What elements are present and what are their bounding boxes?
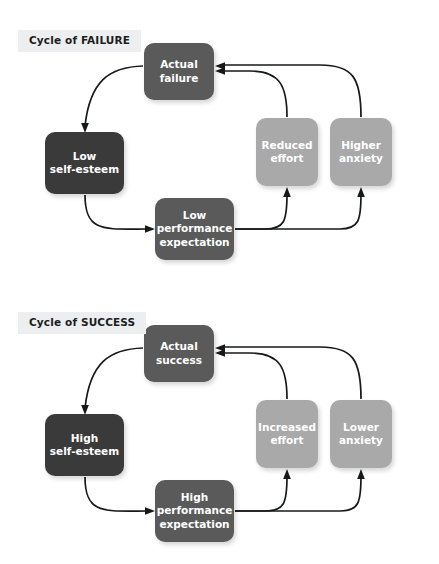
edge-actual-to-esteem [85,348,143,408]
edge-expectation-to-anxiety [235,194,361,229]
edge-anxiety-to-actual [222,347,361,399]
cycle-success-title: Cycle of SUCCESS [18,312,146,334]
edge-esteem-to-expectation [85,195,148,229]
node-actual-success[interactable]: Actual success [144,325,214,382]
edge-anxiety-to-actual-arrowhead [215,344,225,352]
edge-expectation-to-effort-arrowhead [283,187,291,197]
edge-expectation-to-anxiety-arrowhead [357,469,365,479]
edge-effort-to-actual-arrowhead [215,67,225,75]
node-high-self-esteem[interactable]: High self-esteem [45,414,124,476]
cycle-failure-title: Cycle of FAILURE [18,30,141,52]
edge-expectation-to-effort [235,476,287,511]
edge-anxiety-to-actual [222,65,361,117]
edge-expectation-to-effort [235,194,287,229]
node-reduced-effort-label: Reduced effort [261,139,312,165]
node-high-performance-expectation[interactable]: High performance expectation [155,480,234,542]
edge-esteem-to-expectation-arrowhead [145,507,155,515]
node-lower-anxiety-label: Lower anxiety [339,421,383,447]
edge-anxiety-to-actual-arrowhead [215,62,225,70]
node-increased-effort[interactable]: Increased effort [256,400,318,468]
edge-esteem-to-expectation-arrowhead [145,225,155,233]
node-low-performance-expectation[interactable]: Low performance expectation [155,198,234,260]
node-high-self-esteem-label: High self-esteem [50,432,119,458]
node-lower-anxiety[interactable]: Lower anxiety [330,400,392,468]
diagram-page: Cycle of FAILURE Actual failure [0,0,439,564]
edge-effort-to-actual-arrowhead [215,349,225,357]
edge-effort-to-actual [222,353,287,399]
edge-actual-to-esteem [85,66,143,126]
edge-expectation-to-anxiety [235,476,361,511]
node-actual-success-label: Actual success [156,340,202,366]
node-increased-effort-label: Increased effort [258,421,316,447]
edge-expectation-to-anxiety-arrowhead [357,187,365,197]
node-actual-failure-label: Actual failure [160,58,199,84]
node-low-self-esteem-label: Low self-esteem [50,150,119,176]
edge-expectation-to-effort-arrowhead [283,469,291,479]
edge-effort-to-actual [222,71,287,117]
node-high-performance-expectation-label: High performance expectation [157,491,233,530]
node-low-self-esteem[interactable]: Low self-esteem [45,132,124,194]
node-low-performance-expectation-label: Low performance expectation [157,209,233,248]
cycle-success: Cycle of SUCCESS Actual success High sel… [0,282,439,564]
node-higher-anxiety-label: Higher anxiety [339,139,383,165]
cycle-failure: Cycle of FAILURE Actual failure [0,0,439,282]
node-actual-failure[interactable]: Actual failure [144,43,214,100]
node-higher-anxiety[interactable]: Higher anxiety [330,118,392,186]
edge-esteem-to-expectation [85,477,148,511]
node-reduced-effort[interactable]: Reduced effort [256,118,318,186]
